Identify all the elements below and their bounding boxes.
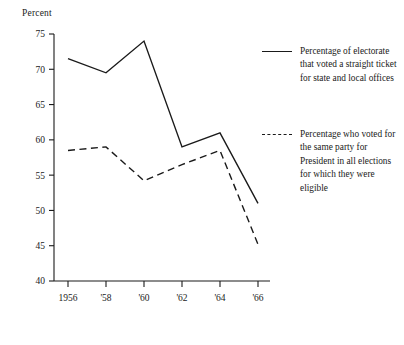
legend-entry-same-party-president: Percentage who voted for the same party … xyxy=(262,128,402,195)
x-axis-tick-label: '58 xyxy=(100,293,111,303)
y-axis-tick-label: 65 xyxy=(36,100,46,110)
x-axis-tick-label: '64 xyxy=(214,293,225,303)
y-axis-tick-label: 55 xyxy=(36,171,46,181)
x-axis-ticks: 1956'58'60'62'64'66 xyxy=(59,281,264,303)
y-axis-tick-label: 50 xyxy=(36,206,46,216)
legend-label-straight-ticket: Percentage of electorate that voted a st… xyxy=(300,45,402,85)
legend-label-same-party-president: Percentage who voted for the same party … xyxy=(300,128,402,195)
series-line-same-party-president xyxy=(68,147,258,244)
solid-line-swatch-icon xyxy=(262,45,292,57)
x-axis-tick-label: 1956 xyxy=(59,293,78,303)
y-axis-tick-label: 60 xyxy=(36,135,46,145)
chart-legend: Percentage of electorate that voted a st… xyxy=(262,0,404,345)
data-series-group xyxy=(68,41,258,244)
x-axis-tick-label: '60 xyxy=(138,293,149,303)
y-axis-tick-label: 40 xyxy=(36,276,46,286)
y-axis-tick-label: 70 xyxy=(36,65,46,75)
y-axis-tick-label: 75 xyxy=(36,29,46,39)
legend-entry-straight-ticket: Percentage of electorate that voted a st… xyxy=(262,45,402,85)
series-line-straight-ticket xyxy=(68,41,258,203)
x-axis: 1956'58'60'62'64'66 xyxy=(54,281,270,303)
dashed-line-swatch-icon xyxy=(262,128,292,140)
x-axis-tick-label: '62 xyxy=(176,293,187,303)
y-axis-ticks: 4045505560657075 xyxy=(36,29,55,286)
y-axis-tick-label: 45 xyxy=(36,241,46,251)
chart-container: Percent 4045505560657075 1956'58'60'62'6… xyxy=(0,0,404,345)
y-axis: 4045505560657075 xyxy=(36,29,55,286)
